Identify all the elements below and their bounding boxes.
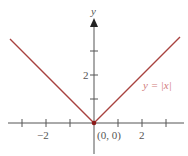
origin-point	[92, 121, 97, 126]
function-label: y = |x|	[142, 79, 172, 91]
y-tick-label-2: 2	[83, 69, 89, 81]
y-axis-label: y	[90, 5, 96, 17]
absolute-value-graph: y −2 2 2 (0, 0) y = |x|	[0, 0, 188, 156]
y-axis-arrow-icon	[90, 18, 98, 27]
x-tick-label-neg2: −2	[37, 129, 49, 141]
x-tick-label-2: 2	[139, 129, 145, 141]
origin-label: (0, 0)	[97, 129, 121, 142]
